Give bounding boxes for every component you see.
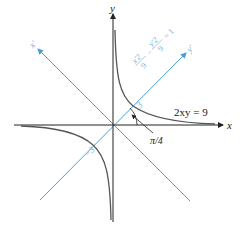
svg-text:9: 9 (139, 61, 148, 70)
angle-label: π/4 (150, 135, 163, 146)
svg-text:= 1: = 1 (162, 27, 176, 41)
y-axis-label: y (109, 2, 115, 14)
svg-text:9: 9 (156, 44, 165, 53)
hyperbola-diagram: x y x' y' 2xy = 9 π/4 3 −3 x'2 9 − y'2 9… (0, 0, 247, 227)
rotated-equation: x'2 9 − y'2 9 = 1 (129, 23, 179, 73)
tick-positive: 3 (134, 100, 145, 111)
hyperbola-branch-lower (21, 126, 111, 220)
angle-pointer (132, 115, 153, 133)
rotated-x-axis-label: x' (26, 38, 39, 51)
svg-text:−: − (145, 48, 155, 58)
x-axis-label: x (226, 119, 232, 131)
equation-original: 2xy = 9 (174, 106, 208, 118)
